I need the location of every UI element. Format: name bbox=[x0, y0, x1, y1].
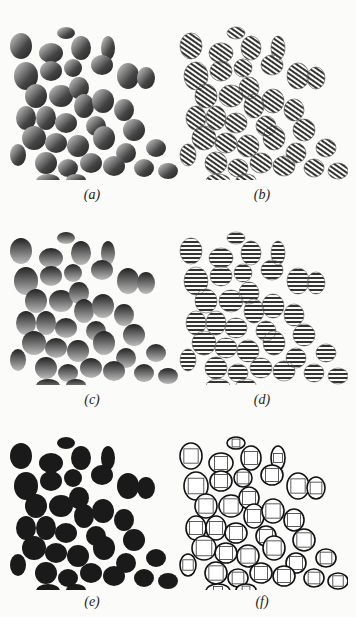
particle bbox=[36, 584, 60, 590]
particle bbox=[261, 55, 283, 75]
particle bbox=[55, 318, 77, 338]
particle bbox=[205, 152, 227, 174]
particle bbox=[192, 536, 216, 560]
particle bbox=[227, 27, 245, 39]
particle bbox=[64, 264, 82, 282]
particle bbox=[304, 569, 324, 587]
particle bbox=[234, 59, 252, 77]
particle bbox=[262, 499, 284, 523]
particle bbox=[304, 364, 324, 382]
particle bbox=[39, 453, 63, 473]
particle bbox=[91, 465, 113, 485]
particle bbox=[134, 364, 154, 382]
particle bbox=[80, 153, 102, 173]
particle bbox=[80, 563, 102, 583]
particle bbox=[263, 536, 285, 560]
particle bbox=[123, 529, 145, 551]
particle bbox=[123, 324, 145, 346]
particle bbox=[40, 61, 62, 81]
particle bbox=[195, 494, 217, 518]
particle bbox=[263, 331, 285, 355]
particle bbox=[67, 340, 89, 362]
particle bbox=[158, 573, 178, 589]
particle bbox=[117, 63, 139, 89]
panel-c-image bbox=[6, 213, 178, 385]
caption-b: (b) bbox=[176, 187, 348, 203]
particle bbox=[195, 289, 217, 313]
particle bbox=[10, 33, 32, 59]
particle bbox=[304, 159, 324, 177]
particle bbox=[293, 119, 315, 141]
particle bbox=[293, 324, 315, 346]
particle bbox=[241, 241, 261, 265]
particles-striped-horizontal bbox=[176, 213, 348, 385]
panel-e-image bbox=[6, 418, 178, 590]
particle bbox=[134, 569, 154, 587]
particle bbox=[10, 144, 26, 166]
particle bbox=[22, 126, 46, 150]
particle bbox=[103, 361, 125, 381]
particle bbox=[227, 232, 245, 244]
particle bbox=[40, 266, 62, 286]
particle bbox=[250, 153, 272, 173]
particle bbox=[117, 473, 139, 499]
particle bbox=[39, 248, 63, 268]
particle bbox=[146, 344, 166, 362]
particle bbox=[80, 358, 102, 378]
particle bbox=[35, 357, 57, 379]
particle bbox=[180, 144, 196, 166]
particle bbox=[57, 27, 75, 39]
particle bbox=[225, 318, 247, 338]
particle bbox=[57, 232, 75, 244]
particle bbox=[234, 469, 252, 487]
particle bbox=[206, 311, 226, 335]
particle bbox=[67, 545, 89, 567]
particle bbox=[293, 529, 315, 551]
particle bbox=[236, 584, 256, 590]
particle bbox=[40, 471, 62, 491]
particle bbox=[93, 331, 115, 355]
particle bbox=[237, 340, 259, 362]
particle bbox=[134, 159, 154, 177]
particle bbox=[35, 152, 57, 174]
particle bbox=[206, 106, 226, 130]
particle bbox=[55, 113, 77, 133]
particle bbox=[158, 368, 178, 384]
caption-c: (c) bbox=[6, 392, 178, 408]
particle bbox=[158, 163, 178, 179]
particle bbox=[36, 379, 60, 385]
particle bbox=[45, 133, 67, 153]
panel-d-image bbox=[176, 213, 348, 385]
particle bbox=[307, 67, 325, 89]
particle bbox=[328, 163, 348, 179]
particle bbox=[316, 344, 336, 362]
particle bbox=[39, 43, 63, 63]
particle bbox=[215, 133, 237, 153]
caption-a: (a) bbox=[6, 187, 178, 203]
particle bbox=[137, 67, 155, 89]
particle bbox=[36, 311, 56, 335]
particle bbox=[261, 260, 283, 280]
particle bbox=[209, 43, 233, 63]
particle bbox=[210, 471, 232, 491]
particle bbox=[205, 357, 227, 379]
particle bbox=[244, 299, 264, 323]
particle bbox=[93, 126, 115, 150]
particle bbox=[57, 437, 75, 449]
particle bbox=[137, 477, 155, 499]
particle bbox=[114, 304, 134, 326]
particle bbox=[25, 494, 47, 518]
particle bbox=[287, 63, 309, 89]
particle bbox=[55, 523, 77, 543]
particle bbox=[25, 84, 47, 108]
particle bbox=[287, 268, 309, 294]
particle bbox=[103, 156, 125, 176]
particle bbox=[45, 338, 67, 358]
particle bbox=[215, 338, 237, 358]
particle bbox=[287, 473, 309, 499]
particle bbox=[284, 509, 304, 531]
particle bbox=[64, 59, 82, 77]
particle bbox=[205, 562, 227, 584]
particle bbox=[180, 554, 196, 576]
particles-solid bbox=[6, 418, 178, 590]
